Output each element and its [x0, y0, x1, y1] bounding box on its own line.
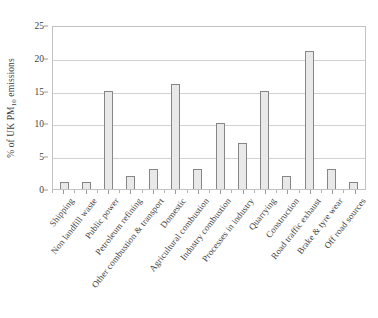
bar-slot [254, 27, 276, 189]
y-axis-tick-mark [44, 91, 48, 92]
x-axis-tick-mark [198, 190, 199, 194]
y-axis-tick-mark [44, 26, 48, 27]
x-axis-tick-slot [187, 190, 209, 195]
y-axis-tick-labels: 0510152025 [20, 0, 48, 318]
x-axis-tick-mark [287, 190, 288, 194]
x-axis-minor-tick [343, 190, 344, 193]
x-axis-tick-mark [108, 190, 109, 194]
x-axis-tick-mark [63, 190, 64, 194]
y-axis-tick-label: 20 [35, 54, 45, 64]
x-axis-tick-mark [355, 190, 356, 194]
y-axis-tick-label: 10 [35, 119, 45, 129]
x-axis-tick-slot [343, 190, 365, 195]
x-axis-minor-tick [164, 190, 165, 193]
pm10-emissions-bar-chart: % of UK PM10 emissions 0510152025 Shippi… [0, 0, 378, 318]
y-axis-tick-label: 15 [35, 87, 45, 97]
x-axis-tick-slot [254, 190, 276, 195]
x-axis-tick-slot [164, 190, 186, 195]
bar [305, 51, 314, 189]
x-axis-minor-tick [97, 190, 98, 193]
x-axis-category-label: Off road sources [322, 196, 368, 251]
bar [260, 91, 269, 189]
bar [171, 84, 180, 189]
x-axis-minor-tick [119, 190, 120, 193]
x-axis-tick-slot [231, 190, 253, 195]
x-axis-minor-tick [321, 190, 322, 193]
x-axis-tick-slot [321, 190, 343, 195]
x-axis-ticks [52, 190, 366, 195]
bar [349, 182, 358, 189]
x-axis-tick-slot [74, 190, 96, 195]
x-axis-tick-slot [52, 190, 74, 195]
x-axis-minor-tick [209, 190, 210, 193]
x-axis-minor-tick [254, 190, 255, 193]
y-axis-tick-mark [44, 58, 48, 59]
y-axis-tick-mark [44, 157, 48, 158]
bar-slot [98, 27, 120, 189]
x-axis-tick-slot [142, 190, 164, 195]
bar [327, 169, 336, 189]
x-axis-minor-tick [187, 190, 188, 193]
bar-slot [120, 27, 142, 189]
x-axis-tick-slot [299, 190, 321, 195]
x-axis-minor-tick [231, 190, 232, 193]
y-axis-title-text: % of UK PM10 emissions [6, 58, 16, 157]
x-axis-tick-slot [276, 190, 298, 195]
x-axis-tick-mark [220, 190, 221, 194]
x-axis-minor-tick [52, 190, 53, 193]
bar-slot [142, 27, 164, 189]
bar [60, 182, 69, 189]
x-axis-minor-tick [276, 190, 277, 193]
x-axis-tick-mark [310, 190, 311, 194]
x-axis-tick-slot [209, 190, 231, 195]
bar-series [53, 27, 365, 189]
x-axis-tick-mark [332, 190, 333, 194]
bar [216, 123, 225, 189]
x-axis-tick-slot [97, 190, 119, 195]
bar-slot [276, 27, 298, 189]
x-axis-minor-tick [299, 190, 300, 193]
x-axis-tick-mark [265, 190, 266, 194]
bar-slot [209, 27, 231, 189]
y-axis-tick-label: 25 [35, 21, 45, 31]
x-axis-tick-mark [243, 190, 244, 194]
x-axis-tick-mark [153, 190, 154, 194]
bar [282, 176, 291, 189]
y-axis-title-suffix: emissions [6, 58, 16, 99]
bar [82, 182, 91, 189]
x-axis-category-labels: ShippingNon landfill wastePublic powerPe… [52, 196, 366, 318]
bar-slot [53, 27, 75, 189]
x-axis-tick-slot [119, 190, 141, 195]
bar [149, 169, 158, 189]
y-axis-tick-mark [44, 124, 48, 125]
bar [193, 169, 202, 189]
x-axis-minor-tick [74, 190, 75, 193]
bar-slot [75, 27, 97, 189]
y-axis-title-prefix: % of UK PM [6, 106, 16, 157]
y-axis-title: % of UK PM10 emissions [2, 26, 20, 190]
bar-slot [320, 27, 342, 189]
bar-slot [298, 27, 320, 189]
bar [238, 143, 247, 189]
x-axis-tick-mark [86, 190, 87, 194]
bar-slot [231, 27, 253, 189]
bar [126, 176, 135, 189]
bar [104, 91, 113, 189]
x-axis-tick-mark [175, 190, 176, 194]
y-axis-tick-mark [44, 190, 48, 191]
plot-area [52, 26, 366, 190]
x-axis-tick-mark [130, 190, 131, 194]
bar-slot [164, 27, 186, 189]
bar-slot [187, 27, 209, 189]
bar-slot [343, 27, 365, 189]
x-axis-minor-tick [142, 190, 143, 193]
y-axis-title-subscript: 10 [10, 99, 18, 106]
